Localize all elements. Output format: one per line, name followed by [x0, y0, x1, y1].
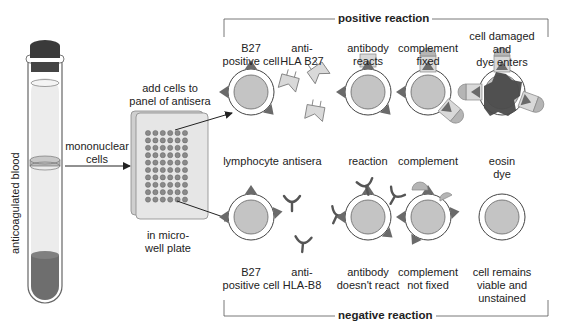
well — [168, 145, 173, 150]
positive-reaction-header: positive reaction — [335, 12, 432, 25]
antibody-y-icon — [284, 196, 300, 211]
well — [160, 190, 165, 195]
well — [168, 153, 173, 158]
well — [175, 130, 180, 135]
well — [153, 197, 158, 202]
antigen-icon — [219, 86, 228, 98]
well — [160, 145, 165, 150]
well — [160, 197, 165, 202]
antigen-icon — [336, 211, 345, 223]
well — [168, 182, 173, 187]
well — [175, 190, 180, 195]
antigen-icon — [219, 211, 228, 223]
lymphocyte-cell — [219, 60, 274, 115]
well — [175, 182, 180, 187]
well — [182, 138, 187, 143]
lymphocyte-cell — [396, 182, 460, 245]
well — [153, 145, 158, 150]
well — [145, 175, 150, 180]
mononuclear-cells-label: mononuclear cells — [64, 140, 130, 166]
test-tube — [26, 40, 64, 303]
well — [168, 130, 173, 135]
well — [160, 182, 165, 187]
well — [182, 182, 187, 187]
positive-top-label-5: cell damaged and dye enters — [460, 30, 544, 69]
well — [145, 190, 150, 195]
complement-icon — [518, 91, 546, 114]
cell-nucleus — [351, 75, 385, 109]
cell-nucleus — [234, 75, 268, 109]
well — [168, 160, 173, 165]
well — [175, 167, 180, 172]
cell-nucleus — [234, 200, 268, 234]
well — [153, 190, 158, 195]
well — [160, 160, 165, 165]
antigen-icon — [396, 86, 405, 98]
well — [168, 197, 173, 202]
well — [145, 182, 150, 187]
well — [145, 145, 150, 150]
well — [153, 153, 158, 158]
antigen-icon — [336, 86, 345, 98]
plate-caption: in micro- well plate — [128, 229, 208, 255]
well — [182, 167, 187, 172]
well — [153, 175, 158, 180]
negative-top-label-4: complement not fixed — [386, 266, 470, 292]
well — [182, 197, 187, 202]
antigen-icon — [245, 185, 257, 194]
cell-nucleus — [351, 200, 385, 234]
well — [182, 145, 187, 150]
well — [145, 130, 150, 135]
antibody-fab-icon — [278, 68, 301, 92]
well — [160, 167, 165, 172]
well — [153, 182, 158, 187]
antigen-icon — [396, 211, 405, 223]
well — [175, 160, 180, 165]
well — [182, 130, 187, 135]
well — [182, 175, 187, 180]
well — [168, 190, 173, 195]
cell-nucleus — [411, 75, 445, 109]
cell-nucleus — [411, 200, 445, 234]
well — [153, 138, 158, 143]
well — [160, 138, 165, 143]
tube-label: anticoagulated blood — [9, 152, 21, 254]
negative-top-label-5: cell remains viable and unstained — [460, 266, 544, 305]
cell-nucleus — [485, 200, 519, 234]
positive-bottom-label-4: complement — [386, 155, 470, 168]
well — [145, 153, 150, 158]
plate-title: add cells to panel of antisera — [120, 82, 220, 108]
well — [168, 175, 173, 180]
well — [175, 175, 180, 180]
well — [153, 167, 158, 172]
free-complement-icon — [440, 193, 452, 201]
free-complement-icon — [412, 182, 428, 190]
microwell-plate — [131, 111, 208, 219]
well — [182, 160, 187, 165]
antibody-y-icon — [294, 236, 311, 252]
well — [145, 197, 150, 202]
tube-cap — [26, 40, 64, 72]
lymphocyte-cell — [336, 185, 393, 240]
well — [175, 153, 180, 158]
well — [160, 130, 165, 135]
complement-icon — [458, 84, 482, 100]
well — [160, 175, 165, 180]
well — [145, 138, 150, 143]
negative-reaction-header: negative reaction — [335, 309, 436, 322]
well — [168, 167, 173, 172]
well — [145, 160, 150, 165]
well — [153, 160, 158, 165]
lymphocyte-cell — [479, 194, 525, 240]
positive-top-label-4: complement fixed — [386, 42, 470, 68]
positive-bottom-label-5: eosin dye — [460, 155, 544, 181]
well — [160, 153, 165, 158]
antibody-fab-icon — [305, 99, 326, 122]
well — [145, 167, 150, 172]
well — [168, 138, 173, 143]
lymphocyte-cell — [219, 185, 283, 240]
well — [175, 145, 180, 150]
well — [175, 138, 180, 143]
well — [153, 130, 158, 135]
well — [182, 190, 187, 195]
